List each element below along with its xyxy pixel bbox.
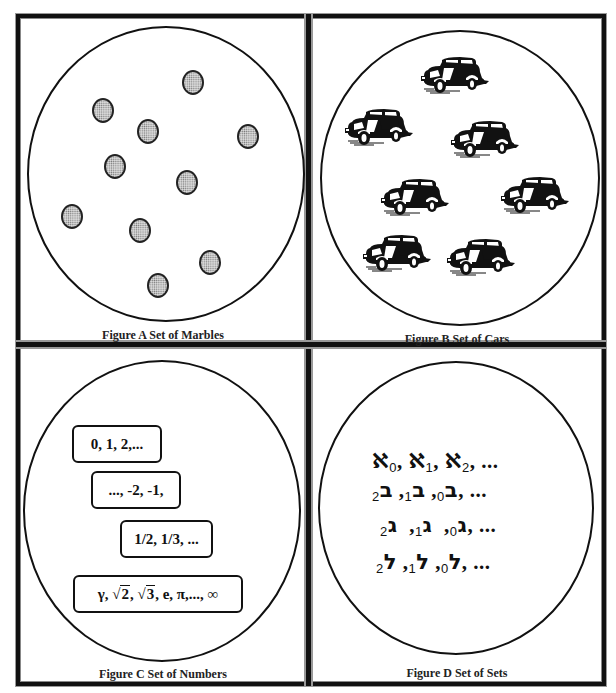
gamma-symbol: γ,	[98, 586, 109, 603]
number-box-negatives: ..., -2, -1,	[91, 471, 181, 509]
marble-icon	[147, 273, 169, 298]
vertical-divider	[306, 14, 311, 686]
panel-marbles: Figure A Set of Marbles	[20, 18, 306, 342]
car-icon	[420, 56, 490, 98]
marble-icon	[129, 218, 151, 243]
marble-icon	[137, 119, 159, 144]
aleph-row: ℵ0, ℵ1, ℵ2, ...	[372, 449, 499, 475]
sqrt-two: √2	[112, 586, 130, 603]
marble-icon	[92, 98, 114, 123]
caption-figure-a: Figure A Set of Marbles	[20, 328, 306, 343]
marble-icon	[199, 250, 221, 275]
marble-icon	[237, 124, 259, 149]
number-box-irrationals: γ, √2, √3, e, π,..., ∞	[73, 575, 243, 613]
car-icon	[446, 238, 516, 280]
gimel-row: ג0, ג1, ג2, ...	[380, 513, 496, 539]
panel-cars: Figure B Set of Cars	[312, 18, 602, 342]
set-circle-numbers	[23, 360, 301, 662]
caption-figure-b: Figure B Set of Cars	[312, 332, 602, 347]
marble-icon	[182, 70, 204, 95]
set-circle-sets	[318, 361, 594, 655]
constants-text: e, π,..., ∞	[163, 586, 219, 603]
marble-icon	[104, 154, 126, 179]
car-icon	[450, 120, 520, 162]
sqrt-three: √3	[137, 586, 155, 603]
number-box-naturals: 0, 1, 2,...	[72, 425, 162, 463]
panel-sets: ℵ0, ℵ1, ℵ2, ... ב0, ב1, ב2, ... ג0, ג1, …	[312, 350, 602, 683]
marble-icon	[176, 170, 198, 195]
car-icon	[500, 176, 570, 218]
beth-row: ב0, ב1, ב2, ...	[372, 478, 487, 504]
caption-figure-c: Figure C Set of Numbers	[20, 667, 306, 682]
lamed-row: ל0, ל1, ל2, ...	[376, 550, 491, 576]
car-icon	[380, 178, 450, 220]
caption-figure-d: Figure D Set of Sets	[312, 666, 602, 681]
marble-icon	[61, 204, 83, 229]
car-icon	[362, 234, 432, 276]
car-icon	[344, 108, 414, 150]
panel-numbers: 0, 1, 2,... ..., -2, -1, 1/2, 1/3, ... γ…	[20, 350, 306, 682]
number-box-fractions: 1/2, 1/3, ...	[120, 520, 213, 558]
